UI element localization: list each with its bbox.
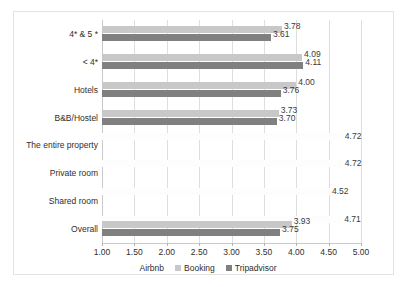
bar-tripadvisor [102,118,277,125]
bar-booking [102,54,302,61]
bar-group: 4.094.11 [102,48,361,76]
bar-booking [102,26,282,33]
bar-group: 3.783.61 [102,20,361,48]
bar-tripadvisor [102,34,271,41]
bar-group: 3.733.70 [102,104,361,132]
category-label: Shared room [49,196,98,206]
x-tick-mark [199,243,200,246]
bar-tripadvisor [102,229,280,236]
x-tick-label: 4.00 [288,247,305,257]
x-tick-label: 1.00 [94,247,111,257]
x-tick-mark [361,243,362,246]
category-axis-labels: 4* & 5 *< 4*HotelsB&B/HostelThe entire p… [14,20,98,243]
bar-group: 4.52 [102,187,361,215]
bar-value-label-tripadvisor: 3.61 [273,30,290,39]
x-tick-label: 2.00 [158,247,175,257]
legend-item[interactable]: Tripadvisor [226,263,277,273]
x-tick-mark [264,243,265,246]
x-tick-label: 1.50 [126,247,143,257]
category-label: Overall [71,224,98,234]
x-tick-mark [102,243,103,246]
x-tick-label: 3.50 [256,247,273,257]
bar-booking [102,221,292,228]
legend-label: Booking [184,263,215,273]
bar-group: 4.72 [102,159,361,187]
x-axis-ticks: 1.001.502.002.503.003.504.004.505.00 [102,243,361,259]
legend-label: Airbnb [139,263,164,273]
category-label: Private room [50,168,98,178]
x-tick-label: 3.00 [223,247,240,257]
x-tick-mark [296,243,297,246]
plot-area: 3.783.614.094.114.003.763.733.704.724.72… [102,20,361,243]
category-label: B&B/Hostel [55,113,98,123]
legend-item[interactable]: Airbnb [130,263,164,273]
x-tick-mark [329,243,330,246]
bar-value-label-tripadvisor: 4.11 [305,58,321,67]
bar-value-label-booking: 4.00 [298,78,315,87]
bar-value-label-airbnb: 4.72 [345,132,362,141]
category-label: The entire property [26,140,98,150]
bar-value-label-airbnb: 4.71 [344,215,361,224]
bar-value-label-airbnb: 4.52 [332,187,349,196]
category-label: 4* & 5 * [69,29,98,39]
legend-label: Tripadvisor [235,263,277,273]
bar-value-label-tripadvisor: 3.75 [282,225,299,234]
x-tick-mark [134,243,135,246]
bar-booking [102,110,279,117]
bar-group: 4.003.76 [102,76,361,104]
bar-value-label-tripadvisor: 3.70 [279,114,296,123]
chart-container: 4* & 5 *< 4*HotelsB&B/HostelThe entire p… [13,11,394,275]
legend-swatch-icon [175,265,181,271]
x-tick-mark [167,243,168,246]
bar-value-label-tripadvisor: 3.76 [283,86,300,95]
x-tick-mark [232,243,233,246]
bar-value-label-airbnb: 4.72 [345,159,362,168]
legend-swatch-icon [130,265,136,271]
legend-swatch-icon [226,265,232,271]
bar-tripadvisor [102,62,303,69]
bar-airbnb [102,188,330,195]
category-label: Hotels [74,85,98,95]
chart-legend: AirbnbBookingTripadvisor [14,261,393,275]
x-tick-label: 5.00 [353,247,370,257]
bar-group: 4.713.933.75 [102,215,361,243]
x-tick-label: 4.50 [320,247,337,257]
legend-item[interactable]: Booking [175,263,215,273]
bar-tripadvisor [102,90,281,97]
category-label: < 4* [83,57,98,67]
bar-airbnb [102,133,343,140]
bar-group: 4.72 [102,132,361,160]
bar-booking [102,82,296,89]
bar-airbnb [102,160,343,167]
x-tick-label: 2.50 [191,247,208,257]
